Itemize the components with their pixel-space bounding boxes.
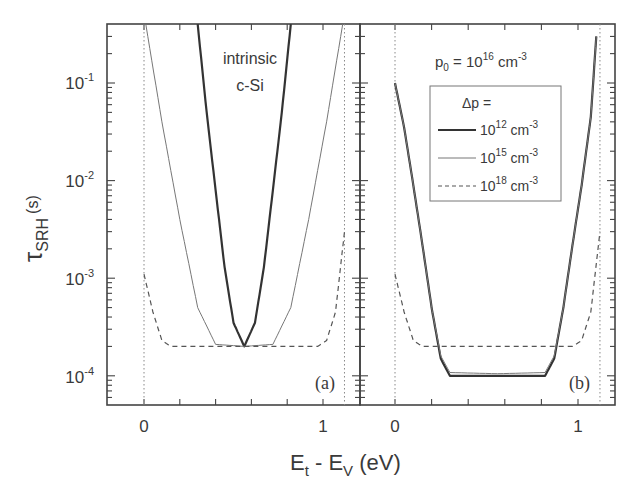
- x-tick-labels: 0 1 0 1: [139, 417, 582, 436]
- x-axis-label: Et - EV (eV): [290, 450, 401, 479]
- y-tick-label-2: 10-2: [65, 169, 94, 191]
- axis-ticks: [107, 24, 615, 405]
- curve-thick-solid: [198, 24, 291, 346]
- legend: Δp = 1012 cm-3 1015 cm-3 1018 cm-3: [430, 86, 561, 201]
- panel-a-annotation-line2: c-Si: [236, 77, 264, 94]
- x-tick-label-b-0: 0: [390, 417, 399, 436]
- bandgap-markers: [144, 24, 600, 405]
- panel-a-annotation-line1: intrinsic: [223, 50, 277, 67]
- panel-b-annotation: p0 = 1016 cm-3: [435, 51, 527, 73]
- x-tick-label-b-1: 1: [573, 417, 582, 436]
- x-tick-label-a-1: 1: [318, 417, 327, 436]
- y-tick-label-4: 10-4: [65, 365, 94, 387]
- y-tick-label-3: 10-3: [65, 267, 94, 289]
- curve-dashed: [144, 232, 345, 347]
- x-tick-label-a-0: 0: [139, 417, 148, 436]
- y-tick-labels: 10-1 10-2 10-3 10-4: [65, 71, 94, 387]
- curve-thin-solid: [146, 24, 343, 346]
- panel-b-label: (b): [569, 373, 590, 394]
- y-tick-label-1: 10-1: [65, 71, 94, 93]
- panel-a-label: (a): [315, 373, 335, 394]
- legend-title: Δp =: [462, 95, 491, 111]
- panel-a-frame: [107, 24, 360, 405]
- curve-dashed: [395, 232, 600, 347]
- y-axis-label: τSRH(s): [18, 195, 51, 262]
- chart-figure: 10-1 10-2 10-3 10-4 0 1 0 1 Et - EV (eV)…: [0, 0, 631, 487]
